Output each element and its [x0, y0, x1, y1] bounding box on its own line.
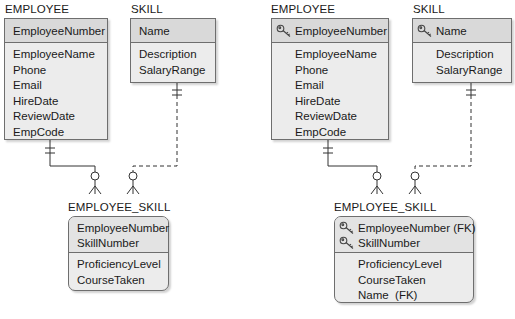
attribute: Description — [139, 47, 215, 63]
key-attribute: EmployeeNumber — [77, 220, 168, 236]
entity-key-section: EmployeeNumber — [272, 19, 388, 43]
left-skill-entity[interactable]: Name Description SalaryRange — [130, 18, 216, 83]
key-icon — [339, 221, 356, 235]
key-attribute-row: SkillNumber — [339, 236, 473, 252]
key-icon — [276, 24, 293, 38]
key-attribute-row: Name — [417, 23, 511, 39]
left-employee-title: EMPLOYEE — [5, 3, 69, 15]
left-employee-entity[interactable]: EmployeeNumber EmployeeName Phone Email … — [4, 18, 108, 140]
entity-key-section: Name — [413, 19, 511, 43]
attribute: EmployeeName — [13, 47, 107, 63]
right-employee-skill-entity[interactable]: EmployeeNumber (FK) SkillNumber Proficie… — [334, 216, 474, 303]
right-skill-relationship — [409, 82, 476, 194]
right-employee-skill-title: EMPLOYEE_SKILL — [334, 201, 436, 213]
attribute: ReviewDate — [13, 109, 107, 125]
right-employee-title: EMPLOYEE — [271, 3, 335, 15]
attribute: CourseTaken — [339, 273, 473, 289]
key-attribute: SkillNumber — [77, 236, 168, 252]
right-skill-entity[interactable]: Name Description SalaryRange — [412, 18, 512, 83]
entity-attributes: ProficiencyLevel CourseTaken Name (FK) — [335, 253, 473, 304]
right-employee-entity[interactable]: EmployeeNumber EmployeeName Phone Email … — [271, 18, 389, 140]
key-attribute: SkillNumber — [358, 237, 420, 249]
entity-attributes: ProficiencyLevel CourseTaken — [69, 253, 168, 288]
attribute: SalaryRange — [139, 63, 215, 79]
key-icon — [339, 236, 356, 250]
attribute: Phone — [276, 63, 388, 79]
entity-key-section: Name — [131, 19, 215, 43]
left-skill-title: SKILL — [131, 3, 163, 15]
attribute: CourseTaken — [77, 273, 168, 289]
entity-attributes: Description SalaryRange — [413, 43, 511, 78]
attribute: Description — [417, 47, 511, 63]
left-skill-relationship — [127, 82, 182, 194]
left-employee-skill-entity[interactable]: EmployeeNumber SkillNumber ProficiencyLe… — [68, 216, 169, 291]
attribute: SalaryRange — [417, 63, 511, 79]
attribute: Email — [276, 78, 388, 94]
attribute: EmpCode — [276, 125, 388, 141]
key-attribute-row: EmployeeNumber (FK) — [339, 220, 473, 236]
attribute: Email — [13, 78, 107, 94]
attribute: ProficiencyLevel — [77, 257, 168, 273]
right-skill-title: SKILL — [413, 3, 445, 15]
entity-key-section: EmployeeNumber SkillNumber — [69, 217, 168, 253]
key-attribute: Name — [436, 25, 467, 37]
left-employee-relationship — [45, 139, 101, 194]
attribute: Phone — [13, 63, 107, 79]
key-attribute: Name — [139, 23, 215, 39]
attribute: ReviewDate — [276, 109, 388, 125]
key-attribute: EmployeeNumber — [295, 25, 387, 37]
entity-attributes: EmployeeName Phone Email HireDate Review… — [272, 43, 388, 140]
key-icon — [417, 24, 434, 38]
attribute: HireDate — [276, 94, 388, 110]
left-employee-skill-title: EMPLOYEE_SKILL — [68, 201, 170, 213]
entity-attributes: Description SalaryRange — [131, 43, 215, 78]
attribute: EmpCode — [13, 125, 107, 141]
attribute: ProficiencyLevel — [339, 257, 473, 273]
entity-key-section: EmployeeNumber (FK) SkillNumber — [335, 217, 473, 253]
attribute: EmployeeName — [276, 47, 388, 63]
attribute: Name (FK) — [339, 288, 473, 304]
entity-attributes: EmployeeName Phone Email HireDate Review… — [5, 43, 107, 140]
key-attribute: EmployeeNumber (FK) — [358, 222, 476, 234]
key-attribute-row: EmployeeNumber — [276, 23, 388, 39]
entity-key-section: EmployeeNumber — [5, 19, 107, 43]
key-attribute: EmployeeNumber — [13, 23, 107, 39]
attribute: HireDate — [13, 94, 107, 110]
right-employee-relationship — [323, 139, 383, 194]
